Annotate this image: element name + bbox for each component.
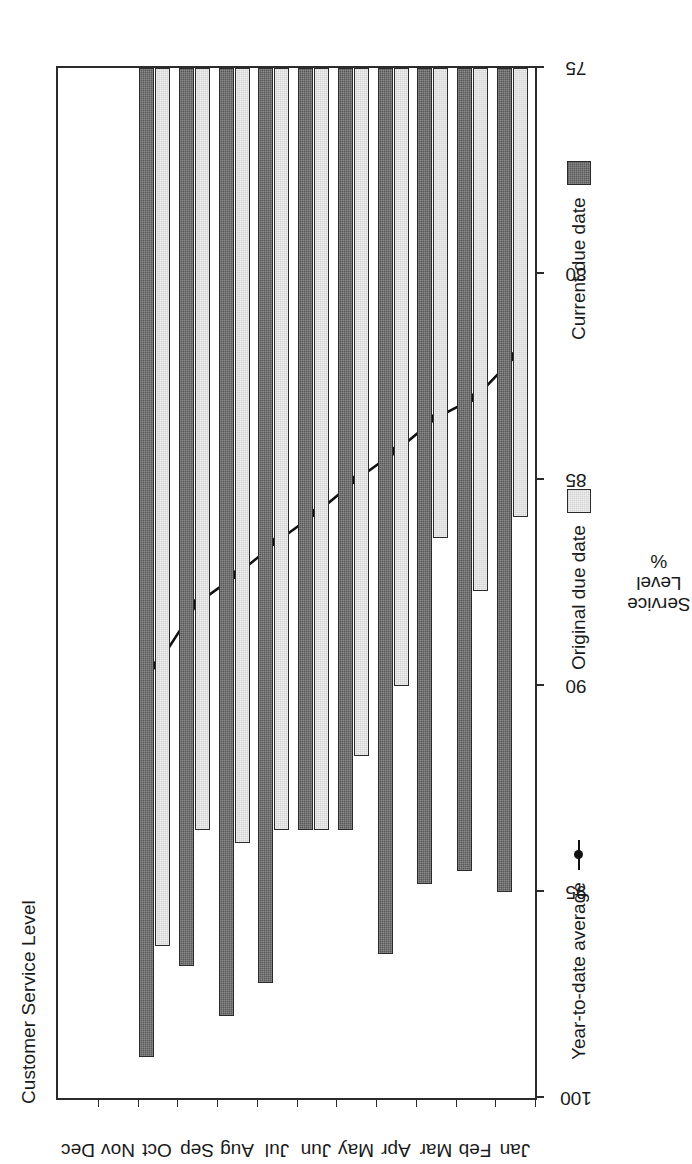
bar-original-aug bbox=[235, 68, 250, 843]
bar-original-oct bbox=[155, 68, 170, 946]
category-label-sep: Sep bbox=[180, 1139, 214, 1161]
legend-label: Year-to-date average bbox=[568, 882, 590, 1060]
bar-current-sep bbox=[179, 68, 194, 966]
bar-current-feb bbox=[457, 68, 472, 871]
bar-original-may bbox=[354, 68, 369, 756]
bar-current-oct bbox=[139, 68, 154, 1057]
value-axis-title: Service Level % bbox=[609, 551, 692, 615]
category-tick bbox=[257, 1098, 258, 1107]
category-tick bbox=[535, 1098, 536, 1107]
category-tick bbox=[416, 1098, 417, 1107]
bar-current-jul bbox=[258, 68, 273, 983]
category-label-mar: Mar bbox=[419, 1139, 452, 1161]
bar-original-jul bbox=[274, 68, 289, 830]
chart-title: Customer Service Level bbox=[18, 900, 40, 1104]
bar-current-jan bbox=[497, 68, 512, 892]
bar-original-feb bbox=[473, 68, 488, 591]
category-label-jul: Jul bbox=[264, 1139, 288, 1161]
category-tick bbox=[98, 1098, 99, 1107]
legend-swatch-avg-icon bbox=[567, 840, 591, 870]
legend-swatch-current-icon bbox=[567, 161, 591, 185]
legend-item-original: Original due date bbox=[567, 489, 591, 670]
value-tick bbox=[535, 478, 544, 480]
category-tick bbox=[217, 1098, 218, 1107]
bar-original-jan bbox=[513, 68, 528, 517]
category-label-feb: Feb bbox=[459, 1139, 492, 1161]
category-label-nov: Nov bbox=[101, 1139, 135, 1161]
value-tick bbox=[535, 684, 544, 686]
category-tick bbox=[177, 1098, 178, 1107]
legend-item-current: Current due date bbox=[567, 161, 591, 340]
category-tick bbox=[376, 1098, 377, 1107]
category-tick bbox=[495, 1098, 496, 1107]
bar-current-jun bbox=[298, 68, 313, 830]
value-tick bbox=[535, 66, 544, 68]
bar-current-aug bbox=[219, 68, 234, 1016]
category-tick bbox=[297, 1098, 298, 1107]
bar-current-apr bbox=[378, 68, 393, 954]
legend-label: Original due date bbox=[568, 525, 590, 670]
category-tick bbox=[336, 1098, 337, 1107]
category-tick bbox=[456, 1098, 457, 1107]
bar-original-apr bbox=[394, 68, 409, 686]
category-label-jan: Jan bbox=[500, 1139, 531, 1161]
value-tick bbox=[535, 272, 544, 274]
category-tick bbox=[138, 1098, 139, 1107]
bar-original-jun bbox=[314, 68, 329, 830]
chart-legend: Year-to-date averageOriginal due dateCur… bbox=[565, 66, 605, 1100]
category-label-dec: Dec bbox=[61, 1139, 95, 1161]
bar-original-sep bbox=[195, 68, 210, 830]
category-label-may: May bbox=[338, 1139, 374, 1161]
plot-inner: JanFebMarAprMayJunJulAugSepOctNovDec1009… bbox=[58, 68, 535, 1098]
bar-current-may bbox=[338, 68, 353, 830]
value-tick bbox=[535, 1096, 544, 1098]
legend-swatch-original-icon bbox=[567, 489, 591, 513]
category-label-jun: Jun bbox=[301, 1139, 332, 1161]
category-label-aug: Aug bbox=[220, 1139, 254, 1161]
plot-area: JanFebMarAprMayJunJulAugSepOctNovDec1009… bbox=[56, 66, 537, 1100]
bar-original-mar bbox=[433, 68, 448, 538]
bar-current-mar bbox=[417, 68, 432, 884]
category-label-oct: Oct bbox=[143, 1139, 173, 1161]
legend-item-avg: Year-to-date average bbox=[567, 840, 591, 1060]
legend-label: Current due date bbox=[568, 197, 590, 340]
chart-page: Customer Service Level JanFebMarAprMayJu… bbox=[0, 0, 692, 1164]
category-label-apr: Apr bbox=[381, 1139, 411, 1161]
value-tick bbox=[535, 890, 544, 892]
rotated-figure: Customer Service Level JanFebMarAprMayJu… bbox=[0, 0, 692, 1164]
